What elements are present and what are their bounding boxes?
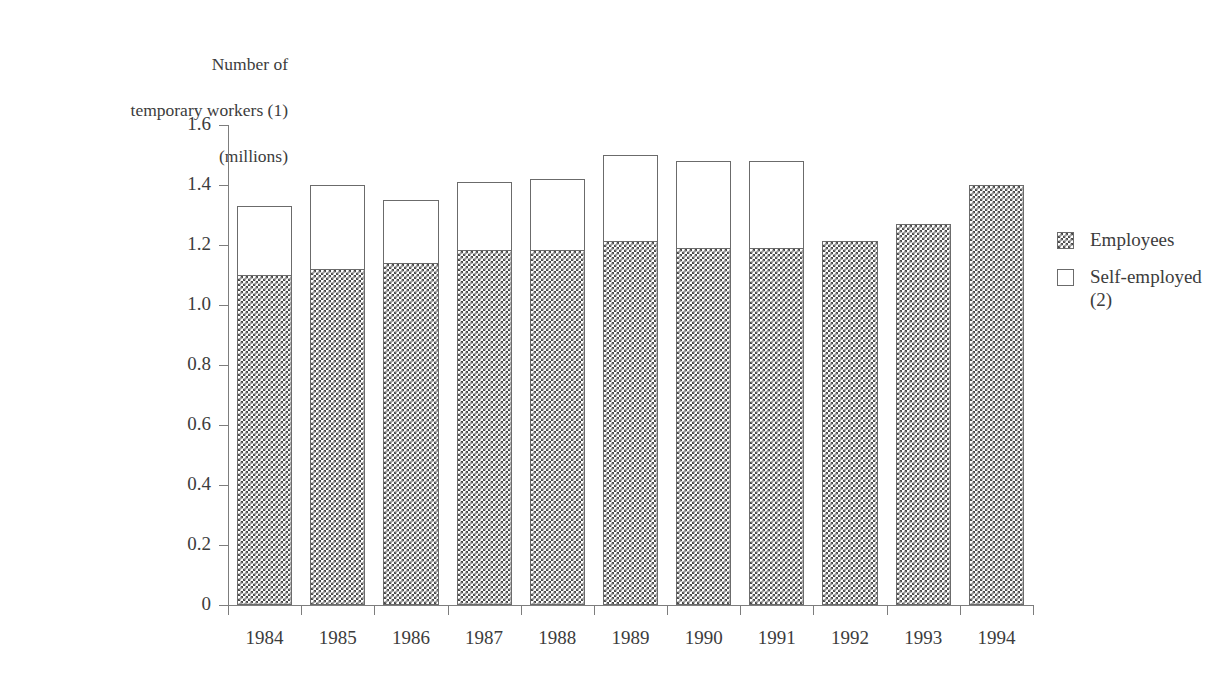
y-axis-tick-label: 0 [202, 593, 212, 615]
legend-swatch-self-employed-icon [1057, 269, 1074, 286]
bar-group[interactable] [383, 125, 438, 605]
y-axis-tick: 1.0 [219, 305, 228, 306]
bar-segment-employees[interactable] [457, 250, 512, 606]
bar-segment-employees[interactable] [749, 248, 804, 605]
x-axis-label: 1986 [374, 627, 447, 649]
bar-segment-self-employed[interactable] [749, 161, 804, 248]
y-axis-tick-label: 1.2 [187, 233, 211, 255]
legend-label: Employees [1090, 228, 1174, 251]
y-axis-tick-label: 0.2 [187, 533, 211, 555]
x-axis-label: 1984 [228, 627, 301, 649]
bar-group[interactable] [749, 125, 804, 605]
bar-group[interactable] [530, 125, 585, 605]
x-axis-tick [960, 605, 961, 615]
x-axis-tick [740, 605, 741, 615]
y-axis-tick: 0.2 [219, 545, 228, 546]
legend-item[interactable]: Self-employed (2) [1057, 265, 1227, 311]
x-axis-tick [374, 605, 375, 615]
bar-segment-employees[interactable] [896, 224, 951, 605]
bar-segment-employees[interactable] [237, 275, 292, 605]
x-axis-label: 1992 [813, 627, 886, 649]
x-axis-tick [1033, 605, 1034, 615]
bar-group[interactable] [603, 125, 658, 605]
y-axis-tick-label: 0.4 [187, 473, 211, 495]
bar-group[interactable] [676, 125, 731, 605]
y-axis-tick: 0.6 [219, 425, 228, 426]
y-axis-tick: 1.6 [219, 125, 228, 126]
legend-label: Self-employed (2) [1090, 265, 1202, 311]
bar-group[interactable] [822, 125, 877, 605]
bar-segment-employees[interactable] [969, 185, 1024, 605]
x-axis-label: 1991 [740, 627, 813, 649]
y-axis-tick-label: 1.4 [187, 173, 211, 195]
y-axis-tick-label: 0.8 [187, 353, 211, 375]
x-axis-tick [813, 605, 814, 615]
bar-group[interactable] [457, 125, 512, 605]
x-axis-line [228, 605, 1033, 606]
x-axis-tick [667, 605, 668, 615]
y-axis-tick: 0 [219, 605, 228, 606]
bar-group[interactable] [237, 125, 292, 605]
bar-group[interactable] [896, 125, 951, 605]
y-axis-tick-label: 1.6 [187, 113, 211, 135]
bar-segment-employees[interactable] [310, 269, 365, 605]
bar-segment-employees[interactable] [603, 241, 658, 606]
y-axis-tick-label: 0.6 [187, 413, 211, 435]
bar-segment-self-employed[interactable] [237, 206, 292, 275]
x-axis-label: 1988 [521, 627, 594, 649]
bar-segment-employees[interactable] [530, 250, 585, 606]
y-axis-tick-label: 1.0 [187, 293, 211, 315]
bar-segment-employees[interactable] [676, 248, 731, 605]
y-axis-title-line-1: Number of [20, 53, 288, 76]
x-axis-tick [301, 605, 302, 615]
x-axis-tick [228, 605, 229, 615]
bar-segment-employees[interactable] [383, 263, 438, 605]
y-axis-title-line-2: temporary workers (1) [20, 99, 288, 122]
x-axis-tick [887, 605, 888, 615]
y-axis-tick: 1.4 [219, 185, 228, 186]
x-axis-label: 1987 [448, 627, 521, 649]
plot-area: 00.20.40.60.81.01.21.41.6 19841985198619… [228, 125, 1033, 605]
x-axis-label: 1985 [301, 627, 374, 649]
legend-swatch-employees-icon [1057, 232, 1074, 249]
chart-container: Number of temporary workers (1) (million… [0, 0, 1231, 693]
bar-group[interactable] [310, 125, 365, 605]
y-axis-tick: 0.4 [219, 485, 228, 486]
x-axis-label: 1989 [594, 627, 667, 649]
bar-segment-self-employed[interactable] [383, 200, 438, 263]
bar-segment-self-employed[interactable] [457, 182, 512, 250]
bar-group[interactable] [969, 125, 1024, 605]
legend-item[interactable]: Employees [1057, 228, 1227, 251]
x-axis-label: 1993 [887, 627, 960, 649]
x-axis-tick [594, 605, 595, 615]
x-axis-label: 1994 [960, 627, 1033, 649]
y-axis-tick: 1.2 [219, 245, 228, 246]
bar-segment-self-employed[interactable] [310, 185, 365, 269]
x-axis-tick [521, 605, 522, 615]
bar-segment-self-employed[interactable] [603, 155, 658, 241]
y-axis-line [228, 125, 229, 605]
bar-segment-self-employed[interactable] [530, 179, 585, 250]
bar-segment-self-employed[interactable] [676, 161, 731, 248]
y-axis-tick: 0.8 [219, 365, 228, 366]
x-axis-tick [448, 605, 449, 615]
bar-segment-employees[interactable] [822, 241, 877, 606]
x-axis-label: 1990 [667, 627, 740, 649]
chart-legend: EmployeesSelf-employed (2) [1057, 228, 1227, 325]
